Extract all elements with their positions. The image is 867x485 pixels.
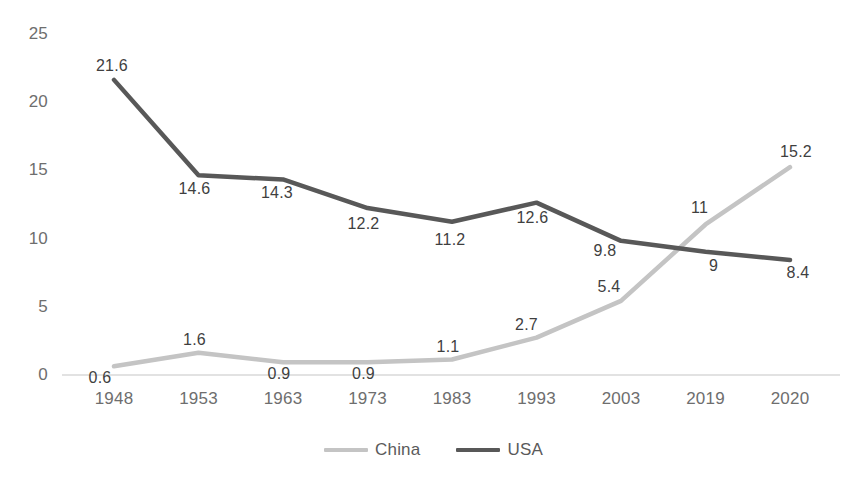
data-point-label: 12.2 [348,216,380,232]
data-labels-layer: 0.61.60.90.91.12.75.41115.221.614.614.31… [0,0,867,485]
line-chart: 0510152025 19481953196319731983199320032… [0,0,867,485]
data-point-label: 0.6 [89,370,112,386]
legend-item-usa[interactable]: USA [456,440,543,459]
data-point-label: 0.9 [352,366,375,382]
data-point-label: 1.6 [183,332,206,348]
data-point-label: 14.3 [261,185,293,201]
legend-item-china[interactable]: China [324,440,420,459]
data-point-label: 0.9 [268,366,291,382]
data-point-label: 11 [691,200,708,216]
data-point-label: 14.6 [179,181,211,197]
legend-label: USA [507,440,543,459]
data-point-label: 1.1 [437,339,460,355]
legend-swatch-icon [456,448,500,452]
data-point-label: 15.2 [780,144,812,160]
data-point-label: 5.4 [598,279,621,295]
data-point-label: 8.4 [787,265,810,281]
data-point-label: 11.2 [435,232,466,248]
legend-label: China [375,440,420,459]
data-point-label: 2.7 [515,317,538,333]
chart-legend: ChinaUSA [0,440,867,459]
legend-swatch-icon [324,448,368,452]
data-point-label: 21.6 [96,58,128,74]
data-point-label: 9.8 [594,243,617,259]
data-point-label: 9 [709,258,718,274]
data-point-label: 12.6 [517,210,549,226]
